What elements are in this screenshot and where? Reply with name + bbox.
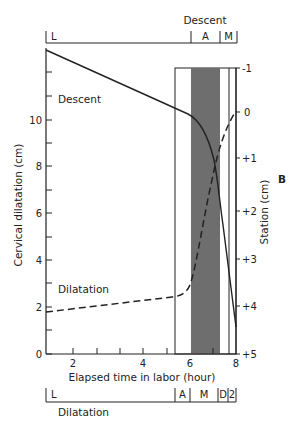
y-tick-label: 10 [29, 115, 42, 126]
x-tick-label: 2 [70, 358, 76, 369]
top-segment-label: L [51, 31, 57, 42]
y-tick-label: 8 [36, 161, 42, 172]
x-tick-label: 6 [187, 358, 193, 369]
y2-tick-label: +4 [242, 301, 257, 312]
bottom-segment-label: M [200, 389, 209, 400]
y2-tick-label: +2 [242, 206, 257, 217]
y2-tick-label: +3 [242, 254, 257, 265]
y2-tick-label: -1 [242, 63, 252, 74]
descent-annotation: Descent [58, 93, 101, 105]
y-tick-label: 2 [36, 302, 42, 313]
y-tick-label: 0 [36, 349, 42, 360]
y-tick-label: 4 [36, 255, 42, 266]
bottom-segment-label: 2 [229, 389, 235, 400]
top-segment-label: A [202, 31, 209, 42]
dilatation-phase-bar: L A M D 2 Dilatation [46, 388, 236, 418]
y2-tick-label: +1 [242, 153, 257, 164]
labor-curve-chart: Descent L A M 0 2 4 6 8 [0, 0, 298, 426]
y-axis-label: Cervical dilatation (cm) [12, 144, 24, 267]
dilatation-annotation: Dilatation [58, 283, 109, 295]
bottom-segment-label: A [179, 389, 186, 400]
bottom-segment-label: L [51, 389, 57, 400]
figure-label: B [278, 173, 286, 185]
bottom-segment-label: D [219, 389, 227, 400]
y2-tick-label: 0 [244, 107, 250, 118]
y2-axis-label: Station (cm) [258, 180, 270, 245]
y2-tick-label: +5 [242, 349, 257, 360]
x-axis-label: Elapsed time in labor (hour) [69, 371, 216, 383]
dilatation-phase-title: Dilatation [58, 406, 109, 418]
x-tick-label: 8 [233, 358, 239, 369]
descent-phase-title: Descent [183, 14, 226, 26]
y-tick-label: 6 [36, 208, 42, 219]
left-y-axis: 0 2 4 6 8 10 Cervical dilatation (cm) [12, 48, 52, 360]
top-segment-label: M [224, 31, 233, 42]
x-tick-label: 4 [140, 358, 146, 369]
descent-phase-bar: Descent L A M [46, 14, 237, 43]
right-y-axis: -1 0 +1 +2 +3 +4 +5 Station (cm) [236, 63, 270, 360]
